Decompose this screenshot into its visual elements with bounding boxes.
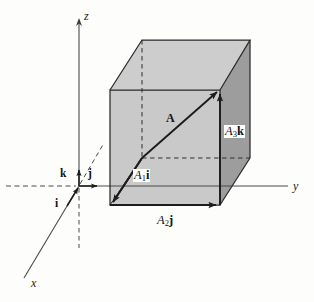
component-a2j-label: A2j bbox=[156, 214, 174, 227]
x-axis-line bbox=[24, 143, 104, 278]
unit-vector-k-label: k bbox=[60, 168, 66, 180]
component-a2j-unit: j bbox=[169, 213, 173, 227]
unit-vector-i-label: i bbox=[55, 198, 58, 210]
unit-vector-i-arrow bbox=[67, 188, 78, 206]
component-a3k-label: A3k bbox=[224, 125, 245, 138]
component-a3k-scalar: A bbox=[225, 124, 233, 138]
component-a1i-scalar: A bbox=[134, 168, 142, 182]
resultant-vector-label: A bbox=[166, 112, 175, 124]
component-a1i-unit: i bbox=[146, 168, 149, 182]
box-front-face bbox=[110, 90, 220, 205]
component-a3k-unit: k bbox=[237, 124, 244, 138]
diagram-canvas bbox=[0, 0, 314, 302]
component-a2j-scalar: A bbox=[157, 213, 165, 227]
vector-components-figure: z y x k j i A A1i A2j A3k bbox=[0, 0, 314, 302]
y-axis-label: y bbox=[293, 180, 298, 192]
component-a1i-label: A1i bbox=[133, 169, 150, 182]
z-axis-label: z bbox=[84, 10, 89, 22]
x-axis-label: x bbox=[31, 277, 36, 289]
unit-vector-j-label: j bbox=[88, 168, 92, 180]
